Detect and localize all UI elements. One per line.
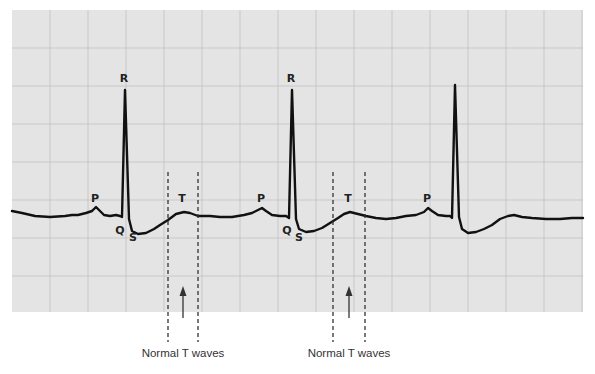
wave-label-s: S [129, 231, 137, 244]
wave-label-q: Q [115, 224, 124, 237]
caption-normal-t-waves: Normal T waves [142, 347, 225, 359]
wave-label-p: P [257, 192, 265, 205]
wave-label-p: P [423, 192, 431, 205]
wave-label-r: R [120, 72, 129, 85]
ecg-diagram: PRQSTPRQSTP Normal T wavesNormal T waves [0, 0, 595, 374]
wave-label-p: P [91, 192, 99, 205]
wave-label-r: R [287, 72, 296, 85]
wave-label-t: T [178, 192, 186, 205]
wave-label-t: T [344, 192, 352, 205]
ecg-paper [12, 10, 583, 312]
captions: Normal T wavesNormal T waves [142, 347, 391, 359]
wave-label-s: S [295, 231, 303, 244]
caption-normal-t-waves: Normal T waves [308, 347, 391, 359]
wave-label-q: Q [282, 224, 291, 237]
